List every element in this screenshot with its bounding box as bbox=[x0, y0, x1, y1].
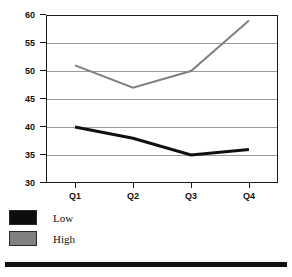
legend-item-high[interactable]: High bbox=[9, 229, 189, 248]
y-tick-label-40: 40 bbox=[1, 123, 35, 132]
x-tick-label-q2: Q2 bbox=[113, 191, 153, 201]
y-axis: 60555045403530 bbox=[0, 0, 46, 198]
series-layer bbox=[46, 15, 278, 183]
y-tick-label-50: 50 bbox=[1, 67, 35, 76]
series-line-low bbox=[75, 127, 249, 155]
x-tick-mark-q4 bbox=[249, 183, 250, 188]
legend-label-low: Low bbox=[53, 212, 73, 224]
x-tick-mark-q3 bbox=[191, 183, 192, 188]
y-tick-label-55: 55 bbox=[1, 39, 35, 48]
x-tick-mark-q1 bbox=[75, 183, 76, 188]
y-tick-label-45: 45 bbox=[1, 95, 35, 104]
chart-figure: 60555045403530 Q1Q2Q3Q4 LowHigh bbox=[0, 0, 292, 277]
legend-swatch-high bbox=[9, 231, 37, 246]
bottom-divider-rule bbox=[5, 262, 287, 267]
clipped-header-text bbox=[185, 0, 285, 5]
legend-swatch-low bbox=[9, 210, 37, 225]
x-tick-label-q1: Q1 bbox=[55, 191, 95, 201]
y-tick-label-60: 60 bbox=[1, 11, 35, 20]
chart-legend: LowHigh bbox=[9, 208, 189, 250]
legend-item-low[interactable]: Low bbox=[9, 208, 189, 227]
x-tick-label-q3: Q3 bbox=[171, 191, 211, 201]
x-tick-mark-q2 bbox=[133, 183, 134, 188]
y-tick-label-30: 30 bbox=[1, 179, 35, 188]
y-tick-label-35: 35 bbox=[1, 151, 35, 160]
series-line-high bbox=[75, 21, 249, 88]
x-tick-label-q4: Q4 bbox=[229, 191, 269, 201]
x-axis: Q1Q2Q3Q4 bbox=[46, 183, 278, 205]
legend-label-high: High bbox=[53, 233, 75, 245]
